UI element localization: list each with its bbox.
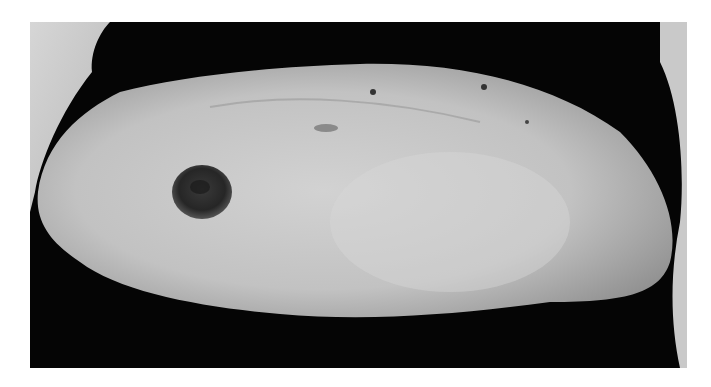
- stoma-lumen: [190, 180, 210, 194]
- mole: [525, 120, 529, 124]
- mole: [481, 84, 487, 90]
- umbilicus: [314, 124, 338, 132]
- skin-patch: [330, 152, 570, 292]
- mole: [370, 89, 376, 95]
- photo-scene: [30, 22, 687, 368]
- clinical-photograph: [30, 22, 687, 368]
- sheet-right: [660, 22, 687, 368]
